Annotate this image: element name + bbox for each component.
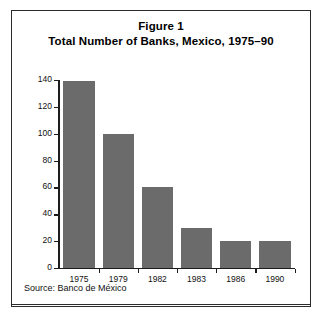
- y-axis-tick: 40: [46, 214, 58, 215]
- y-tick-mark: [54, 107, 58, 108]
- bar: [220, 241, 251, 268]
- y-axis-tick: 80: [46, 161, 58, 162]
- bar-series: [60, 80, 295, 268]
- y-tick-mark: [54, 161, 58, 162]
- y-tick-label: 40: [43, 208, 52, 218]
- y-tick-mark: [54, 134, 58, 135]
- x-tick-label: 1982: [138, 274, 177, 284]
- x-tick-mark: [99, 269, 100, 273]
- y-tick-label: 80: [43, 155, 52, 165]
- y-tick-mark: [54, 268, 58, 269]
- figure-number: Figure 1: [12, 19, 310, 34]
- y-tick-label: 120: [38, 101, 52, 111]
- y-tick-mark: [54, 80, 58, 81]
- y-tick-label: 140: [38, 74, 52, 84]
- x-tick-label: 1990: [255, 274, 294, 284]
- bar: [142, 187, 173, 268]
- y-tick-label: 20: [43, 235, 52, 245]
- y-tick-mark: [54, 241, 58, 242]
- figure-frame: Figure 1 Total Number of Banks, Mexico, …: [11, 10, 311, 307]
- bar: [63, 81, 94, 268]
- x-tick-mark: [138, 269, 139, 273]
- y-axis-tick: 120: [46, 107, 58, 108]
- bar: [181, 228, 212, 268]
- y-axis-tick: 60: [46, 187, 58, 188]
- y-tick-mark: [54, 214, 58, 215]
- x-tick-label: 1986: [216, 274, 255, 284]
- y-tick-label: 100: [38, 128, 52, 138]
- y-axis-tick: 140: [46, 80, 58, 81]
- x-tick-mark: [216, 269, 217, 273]
- figure-subtitle: Total Number of Banks, Mexico, 1975–90: [12, 34, 310, 49]
- y-axis-tick: 100: [46, 134, 58, 135]
- y-tick-label: 60: [43, 181, 52, 191]
- x-tick-mark: [295, 269, 296, 273]
- figure-title: Figure 1 Total Number of Banks, Mexico, …: [12, 19, 310, 49]
- y-axis-tick: 0: [46, 268, 58, 269]
- plot-area: 020406080100120140 197519791982198319861…: [46, 69, 296, 281]
- y-tick-mark: [54, 187, 58, 188]
- x-tick-mark: [255, 269, 256, 273]
- source-note: Source: Banco de México: [24, 283, 127, 293]
- y-axis-tick: 20: [46, 241, 58, 242]
- x-tick-label: 1983: [177, 274, 216, 284]
- source-divider: [12, 304, 310, 305]
- x-tick-mark: [177, 269, 178, 273]
- bar: [103, 134, 134, 268]
- bar: [259, 241, 290, 268]
- y-tick-label: 0: [47, 262, 52, 272]
